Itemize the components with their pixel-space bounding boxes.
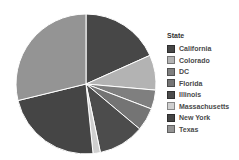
- legend-item-label: Illinois: [179, 91, 201, 98]
- legend-swatch-icon: [167, 114, 175, 122]
- legend-item-illinois[interactable]: Illinois: [167, 89, 229, 101]
- legend-swatch-icon: [167, 79, 175, 87]
- legend-title: State: [167, 32, 229, 39]
- legend-item-florida[interactable]: Florida: [167, 78, 229, 90]
- legend-swatch-icon: [167, 56, 175, 64]
- legend-item-colorado[interactable]: Colorado: [167, 55, 229, 67]
- legend-item-label: Florida: [179, 80, 202, 87]
- legend-items: CaliforniaColoradoDCFloridaIllinoisMassa…: [167, 43, 229, 135]
- legend-item-massachusetts[interactable]: Massachusetts: [167, 101, 229, 113]
- legend-item-dc[interactable]: DC: [167, 66, 229, 78]
- legend-swatch-icon: [167, 68, 175, 76]
- legend-item-label: New York: [179, 114, 210, 121]
- legend-item-label: DC: [179, 68, 189, 75]
- chart-canvas: State CaliforniaColoradoDCFloridaIllinoi…: [0, 0, 239, 160]
- legend-swatch-icon: [167, 102, 175, 110]
- legend-item-texas[interactable]: Texas: [167, 124, 229, 136]
- legend-swatch-icon: [167, 125, 175, 133]
- legend-item-label: Colorado: [179, 57, 210, 64]
- legend-swatch-icon: [167, 91, 175, 99]
- legend: State CaliforniaColoradoDCFloridaIllinoi…: [167, 32, 229, 135]
- legend-item-label: California: [179, 45, 211, 52]
- legend-item-label: Texas: [179, 126, 198, 133]
- legend-swatch-icon: [167, 45, 175, 53]
- legend-item-label: Massachusetts: [179, 103, 229, 110]
- legend-item-california[interactable]: California: [167, 43, 229, 55]
- legend-item-new-york[interactable]: New York: [167, 112, 229, 124]
